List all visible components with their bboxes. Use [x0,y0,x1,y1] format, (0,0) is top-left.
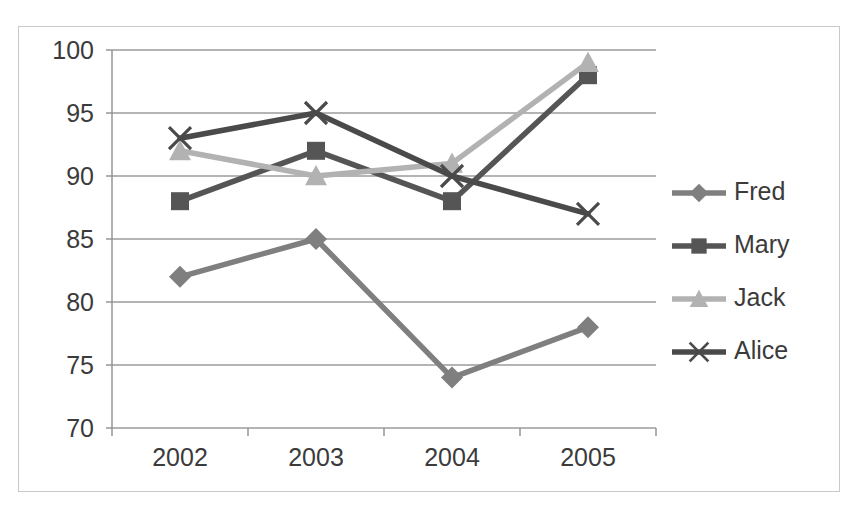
legend-marker-icon [691,238,706,253]
legend-item-jack[interactable]: Jack [672,283,786,311]
series-line [180,75,588,201]
x-axis-tick-label: 2002 [152,443,208,471]
y-axis-tick-label: 85 [66,225,94,253]
legend-label: Jack [734,283,786,311]
x-axis-tick-label: 2003 [288,443,344,471]
y-axis-tick-marks [106,50,112,428]
y-axis-tick-labels: 707580859095100 [52,36,94,442]
data-series-group [169,52,599,389]
legend-item-alice[interactable]: Alice [672,336,788,364]
legend-marker-icon [690,184,709,203]
x-axis-tick-marks [112,428,656,436]
legend-label: Fred [734,177,785,205]
chart-legend: FredMaryJackAlice [672,177,790,364]
data-point-marker [171,192,189,210]
data-series [171,66,597,210]
series-line [180,239,588,378]
y-axis-tick-label: 90 [66,162,94,190]
data-point-marker [307,142,325,160]
gridlines [112,50,656,428]
data-series [169,52,599,186]
x-axis-tick-label: 2004 [424,443,480,471]
line-chart: 707580859095100 2002200320042005 FredMar… [0,0,857,520]
x-axis-tick-labels: 2002200320042005 [152,443,616,471]
legend-item-fred[interactable]: Fred [672,177,785,205]
y-axis-tick-label: 80 [66,288,94,316]
data-point-marker [443,192,461,210]
legend-item-mary[interactable]: Mary [672,230,790,258]
series-line [180,63,588,176]
y-axis-tick-label: 75 [66,351,94,379]
data-point-marker [577,52,599,72]
y-axis-tick-label: 70 [66,414,94,442]
y-axis-tick-label: 100 [52,36,94,64]
y-axis-tick-label: 95 [66,99,94,127]
data-point-marker [169,266,191,288]
data-point-marker [577,316,599,338]
chart-container: 707580859095100 2002200320042005 FredMar… [0,0,857,520]
x-axis-tick-label: 2005 [560,443,616,471]
legend-label: Mary [734,230,790,258]
legend-label: Alice [734,336,788,364]
